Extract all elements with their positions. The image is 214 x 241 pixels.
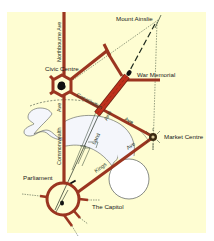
canberra-map: Mount Ainslie War Memorial Civic Centre …: [0, 0, 214, 241]
label-mount-ainslie: Mount Ainslie: [116, 15, 153, 22]
label-the-capitol: The Capitol: [92, 203, 124, 210]
label-civic-centre: Civic Centre: [45, 65, 79, 72]
label-parliament: Parliament: [23, 174, 53, 181]
civic-centre-hub: [53, 75, 71, 96]
label-commonwealth-ave: Ave: [56, 103, 62, 112]
label-market-centre: Market Centre: [164, 133, 204, 140]
label-war-memorial: War Memorial: [137, 71, 175, 78]
label-commonwealth: Commonwealth: [56, 128, 62, 165]
label-northbourne-ave: Northbourne Ave: [56, 22, 62, 62]
